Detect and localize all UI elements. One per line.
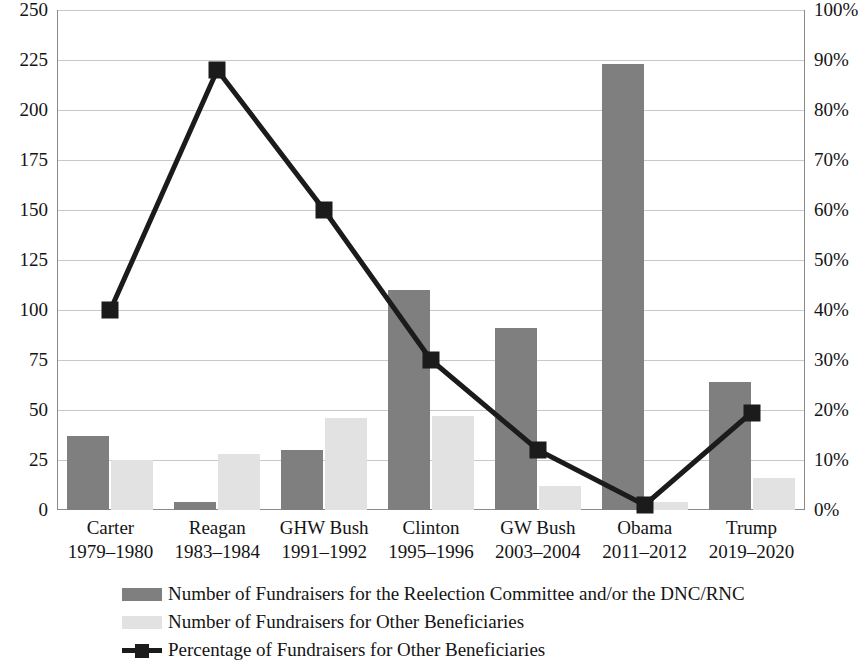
gridline <box>57 210 805 211</box>
gridline <box>57 410 805 411</box>
category-label: Trump2019–2020 <box>698 516 805 564</box>
legend-label-primary: Number of Fundraisers for the Reelection… <box>168 583 745 605</box>
bar <box>709 382 751 510</box>
bar <box>495 328 537 510</box>
legend-item-percentage-line: Percentage of Fundraisers for Other Bene… <box>0 636 868 664</box>
line-marker <box>529 442 546 459</box>
right-tick-label: 20% <box>814 400 849 419</box>
category-label: Clinton1995–1996 <box>378 516 485 564</box>
bar <box>325 418 367 510</box>
category-axis-labels: Carter1979–1980Reagan1983–1984GHW Bush19… <box>57 516 805 572</box>
right-tick-label: 10% <box>814 450 849 469</box>
category-label-name: GHW Bush <box>271 516 378 540</box>
category-label-years: 2011–2012 <box>591 540 698 564</box>
gridline <box>57 110 805 111</box>
gridline <box>57 460 805 461</box>
category-label: GHW Bush1991–1992 <box>271 516 378 564</box>
right-tick-label: 60% <box>814 200 849 219</box>
bar <box>67 436 109 510</box>
category-label-years: 1979–1980 <box>57 540 164 564</box>
chart-container: 0255075100125150175200225250 0%10%20%30%… <box>0 0 868 664</box>
category-label: Reagan1983–1984 <box>164 516 271 564</box>
legend-item-primary-bars: Number of Fundraisers for the Reelection… <box>0 580 868 608</box>
category-label: GW Bush2003–2004 <box>484 516 591 564</box>
left-tick-label: 150 <box>20 200 49 219</box>
category-label: Carter1979–1980 <box>57 516 164 564</box>
category-label-years: 1995–1996 <box>378 540 485 564</box>
right-tick-label: 30% <box>814 350 849 369</box>
right-tick-label: 100% <box>814 0 858 19</box>
right-tick-label: 40% <box>814 300 849 319</box>
gridline <box>57 160 805 161</box>
gridline <box>57 310 805 311</box>
bar <box>218 454 260 510</box>
category-label-years: 2019–2020 <box>698 540 805 564</box>
right-tick-label: 50% <box>814 250 849 269</box>
category-label-years: 1991–1992 <box>271 540 378 564</box>
gridline <box>57 10 805 11</box>
category-label-name: Reagan <box>164 516 271 540</box>
left-tick-label: 225 <box>20 50 49 69</box>
legend-label-secondary: Number of Fundraisers for Other Benefici… <box>168 611 524 633</box>
primary-bar-swatch-icon <box>122 588 162 601</box>
right-tick-label: 70% <box>814 150 849 169</box>
left-tick-label: 250 <box>20 0 49 19</box>
left-tick-label: 50 <box>29 400 48 419</box>
category-label-name: Clinton <box>378 516 485 540</box>
left-tick-label: 100 <box>20 300 49 319</box>
line-marker <box>743 404 760 421</box>
percentage-line-path <box>110 70 751 505</box>
plot-area <box>57 10 805 510</box>
category-label-name: Trump <box>698 516 805 540</box>
left-tick-label: 25 <box>29 450 48 469</box>
category-label-years: 2003–2004 <box>484 540 591 564</box>
line-marker <box>316 202 333 219</box>
category-label-name: GW Bush <box>484 516 591 540</box>
secondary-bar-swatch-icon <box>122 616 162 629</box>
category-label: Obama2011–2012 <box>591 516 698 564</box>
right-tick-label: 0% <box>814 500 839 519</box>
right-tick-label: 90% <box>814 50 849 69</box>
left-tick-label: 125 <box>20 250 49 269</box>
legend-item-secondary-bars: Number of Fundraisers for Other Benefici… <box>0 608 868 636</box>
bar <box>111 460 153 510</box>
line-marker <box>423 352 440 369</box>
line-marker <box>102 302 119 319</box>
bar <box>174 502 216 510</box>
left-tick-label: 0 <box>39 500 49 519</box>
left-tick-label: 75 <box>29 350 48 369</box>
category-label-name: Carter <box>57 516 164 540</box>
category-label-name: Obama <box>591 516 698 540</box>
right-tick-label: 80% <box>814 100 849 119</box>
bar <box>539 486 581 510</box>
bar <box>602 64 644 510</box>
bar <box>281 450 323 510</box>
category-label-years: 1983–1984 <box>164 540 271 564</box>
gridline <box>57 260 805 261</box>
line-marker <box>209 62 226 79</box>
line-marker-swatch-icon <box>122 642 162 659</box>
bar <box>432 416 474 510</box>
legend-label-line: Percentage of Fundraisers for Other Bene… <box>168 639 545 661</box>
right-axis-spine <box>804 10 805 510</box>
left-axis-spine <box>57 10 58 510</box>
bar <box>753 478 795 510</box>
category-axis-line <box>57 509 805 510</box>
chart-legend: Number of Fundraisers for the Reelection… <box>0 580 868 664</box>
line-marker <box>636 497 653 514</box>
left-tick-label: 200 <box>20 100 49 119</box>
left-tick-label: 175 <box>20 150 49 169</box>
bar <box>388 290 430 510</box>
gridline <box>57 60 805 61</box>
